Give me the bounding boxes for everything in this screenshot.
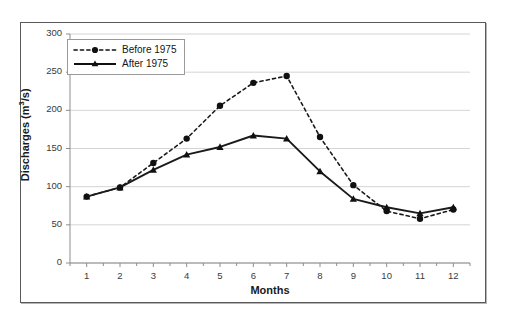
datapoint-before-1975-m3 [150,160,156,166]
x-tick-label-8: 8 [305,270,335,281]
series-line-before-1975 [87,76,454,219]
datapoint-before-1975-m5 [217,103,223,109]
y-axis-title-main: Discharges (m [19,105,31,181]
legend-item-before-1975: Before 1975 [73,43,177,57]
x-tick-label-3: 3 [138,270,168,281]
y-axis-title-superscript: 3 [17,101,26,105]
x-tick-label-6: 6 [238,270,268,281]
y-axis-title-tail: /s) [19,88,31,101]
legend-label-before-1975: Before 1975 [122,43,177,57]
plot-area: 050100150200250300 123456789101112 Disch… [0,0,505,321]
chart-figure: 050100150200250300 123456789101112 Disch… [0,0,505,321]
y-tick-label-300: 300 [24,27,62,38]
x-tick-label-9: 9 [338,270,368,281]
x-tick-label-10: 10 [372,270,402,281]
x-tick-label-2: 2 [105,270,135,281]
legend-swatch-solid-triangle-icon [73,58,117,70]
datapoint-before-1975-m4 [183,135,189,141]
datapoint-before-1975-m9 [350,182,356,188]
datapoint-before-1975-m11 [417,216,423,222]
y-axis-title: Discharges (m3/s) [17,65,31,205]
datapoint-before-1975-m7 [283,73,289,79]
x-tick-label-1: 1 [72,270,102,281]
x-tick-label-4: 4 [172,270,202,281]
legend-swatch-dotted-circle-icon [73,44,117,56]
datapoint-before-1975-m8 [317,134,323,140]
y-tick-label-0: 0 [24,256,62,267]
series-line-after-1975 [87,136,454,214]
chart-legend: Before 1975 After 1975 [67,39,185,75]
x-axis-title: Months [70,284,470,296]
legend-label-after-1975: After 1975 [122,57,168,71]
x-tick-label-12: 12 [438,270,468,281]
y-tick-label-50: 50 [24,218,62,229]
series-before-1975 [83,73,456,222]
datapoint-before-1975-m6 [250,80,256,86]
x-tick-label-11: 11 [405,270,435,281]
legend-item-after-1975: After 1975 [73,57,177,71]
x-tick-label-7: 7 [272,270,302,281]
x-tick-label-5: 5 [205,270,235,281]
